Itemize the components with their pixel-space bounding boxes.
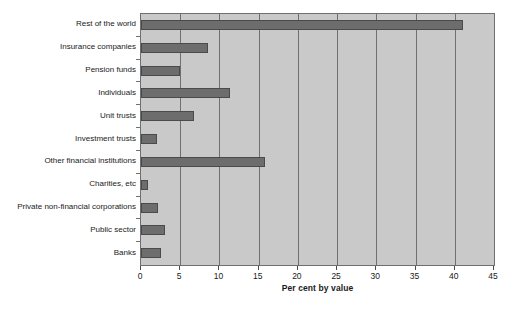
bar: [141, 66, 180, 76]
category-label: Investment trusts: [0, 134, 136, 143]
x-axis-tick-15: [258, 266, 259, 270]
bar-row: [141, 219, 494, 242]
x-axis-tick-label-15: 15: [253, 271, 262, 281]
category-label: Other financial institutions: [0, 156, 136, 165]
bar: [141, 20, 463, 30]
bar-series: [141, 14, 494, 265]
x-axis-title: Per cent by value: [140, 283, 495, 293]
category-label: Private non-financial corporations: [0, 202, 136, 211]
x-axis-tick-0: [140, 266, 141, 270]
category-label: Banks: [0, 248, 136, 257]
x-axis-tick-30: [375, 266, 376, 270]
x-axis-tick-label-40: 40: [449, 271, 458, 281]
category-label: Unit trusts: [0, 111, 136, 120]
bar-row: [141, 174, 494, 197]
x-axis-tick-35: [415, 266, 416, 270]
bar: [141, 88, 230, 98]
x-axis-tick-label-0: 0: [138, 271, 143, 281]
x-axis-tick-label-10: 10: [214, 271, 223, 281]
bar-row: [141, 60, 494, 83]
x-axis-tick-label-5: 5: [177, 271, 182, 281]
x-axis-tick-label-25: 25: [331, 271, 340, 281]
bar: [141, 43, 208, 53]
bar: [141, 225, 165, 235]
bar: [141, 180, 148, 190]
category-label: Individuals: [0, 88, 136, 97]
x-axis-tick-25: [336, 266, 337, 270]
bar-row: [141, 151, 494, 174]
bar-row: [141, 37, 494, 60]
category-label: Rest of the world: [0, 19, 136, 28]
bar: [141, 134, 157, 144]
bar-row: [141, 14, 494, 37]
category-axis-labels: Rest of the worldInsurance companiesPens…: [0, 13, 136, 266]
bar: [141, 157, 265, 167]
figure-caption: [6, 300, 506, 312]
plot-area: [140, 13, 495, 266]
x-axis-tick-labels: 051015202530354045: [140, 271, 495, 283]
category-label: Charities, etc: [0, 179, 136, 188]
bar: [141, 203, 158, 213]
bar-row: [141, 82, 494, 105]
bar-row: [141, 105, 494, 128]
bar: [141, 111, 194, 121]
bar-row: [141, 197, 494, 220]
category-label: Public sector: [0, 225, 136, 234]
x-axis-tick-40: [454, 266, 455, 270]
x-axis-tick-label-45: 45: [488, 271, 497, 281]
bar-row: [141, 128, 494, 151]
x-axis-tick-45: [493, 266, 494, 270]
x-axis-tick-label-35: 35: [410, 271, 419, 281]
x-axis-tick-20: [297, 266, 298, 270]
bar-row: [141, 242, 494, 265]
category-label: Pension funds: [0, 65, 136, 74]
x-axis-tick-10: [218, 266, 219, 270]
figure: Rest of the worldInsurance companiesPens…: [0, 0, 512, 312]
bar: [141, 248, 161, 258]
x-axis-tick-5: [179, 266, 180, 270]
x-axis-tick-label-30: 30: [371, 271, 380, 281]
category-label: Insurance companies: [0, 42, 136, 51]
x-axis-tick-label-20: 20: [292, 271, 301, 281]
